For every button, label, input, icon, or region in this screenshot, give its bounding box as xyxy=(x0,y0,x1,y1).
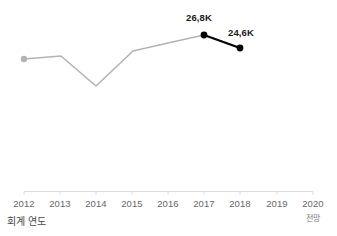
x-tick-label-2020: 2020 xyxy=(296,198,330,209)
data-label-2017: 26,8K xyxy=(186,12,212,23)
x-axis-title: 회계 연도 xyxy=(7,213,46,228)
x-tick-label-2015: 2015 xyxy=(115,198,149,209)
x-axis-ticks xyxy=(24,192,313,196)
data-point-2018[interactable] xyxy=(237,45,244,52)
x-tick-label-2019: 2019 xyxy=(260,198,294,209)
x-tick-label-2013: 2013 xyxy=(43,198,77,209)
series-historical-line xyxy=(24,35,204,86)
x-tick-label-2012: 2012 xyxy=(7,198,41,209)
data-label-2018: 24,6K xyxy=(228,27,254,38)
data-point-2017[interactable] xyxy=(201,32,208,39)
x-tick-label-2014: 2014 xyxy=(79,198,113,209)
x-tick-label-2016: 2016 xyxy=(151,198,185,209)
line-chart: 26,8K 24,6K 2012 2013 2014 2015 2016 201… xyxy=(0,0,337,236)
x-tick-note-2020-forecast: 전망 xyxy=(296,212,330,223)
x-tick-label-2018: 2018 xyxy=(223,198,257,209)
x-tick-label-2017: 2017 xyxy=(187,198,221,209)
data-point-2012[interactable] xyxy=(21,56,27,62)
